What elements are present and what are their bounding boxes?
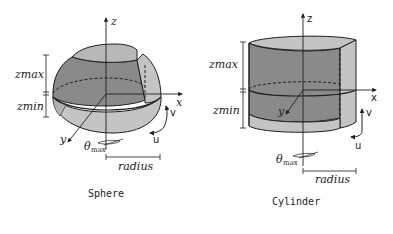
sphere-x-label: x xyxy=(176,96,183,109)
cylinder-y-label: y xyxy=(277,105,285,118)
sphere-caption: Sphere xyxy=(88,188,124,199)
sphere-theta-label: θ xyxy=(84,140,91,153)
cylinder-theta-sub: max xyxy=(283,159,298,167)
cylinder-radius-label: radius xyxy=(315,173,350,186)
sphere-z-label: z xyxy=(110,15,117,28)
sphere-u-label: u xyxy=(153,134,159,145)
sphere-figure: z x y zmax zmin v u θ max radius Sphere xyxy=(14,15,183,199)
sphere-dark-surface xyxy=(53,57,145,106)
cylinder-figure: z x y zmax zmin v u θ max radius Cylinde… xyxy=(208,13,377,207)
cylinder-z-label: z xyxy=(307,13,312,24)
cylinder-theta-icon xyxy=(293,152,318,158)
sphere-v-arrow xyxy=(164,106,167,127)
sphere-y-label: y xyxy=(59,133,67,146)
cylinder-zmin-label: zmin xyxy=(212,104,240,117)
sphere-theta-sub: max xyxy=(91,146,106,154)
shapes-diagram: z x y zmax zmin v u θ max radius Sphere xyxy=(0,0,393,234)
sphere-v-label: v xyxy=(170,107,176,118)
cylinder-v-label: v xyxy=(366,107,372,118)
cylinder-dark-surface xyxy=(249,43,340,122)
sphere-theta-icon xyxy=(98,139,123,145)
sphere-zmin-label: zmin xyxy=(16,100,44,113)
cylinder-u-label: u xyxy=(355,140,361,151)
sphere-top-cap xyxy=(72,44,137,62)
sphere-z-brackets xyxy=(43,55,49,117)
cylinder-caption: Cylinder xyxy=(272,196,320,207)
sphere-zmax-label: zmax xyxy=(14,68,45,81)
cylinder-zmax-label: zmax xyxy=(208,58,239,71)
cylinder-theta-label: θ xyxy=(276,153,283,166)
cylinder-z-brackets xyxy=(240,42,246,128)
cylinder-x-label: x xyxy=(371,92,377,103)
cylinder-u-arrow xyxy=(351,131,362,137)
cylinder-cut-face xyxy=(340,40,356,128)
sphere-u-arrow xyxy=(150,127,164,133)
sphere-radius-label: radius xyxy=(118,160,153,173)
